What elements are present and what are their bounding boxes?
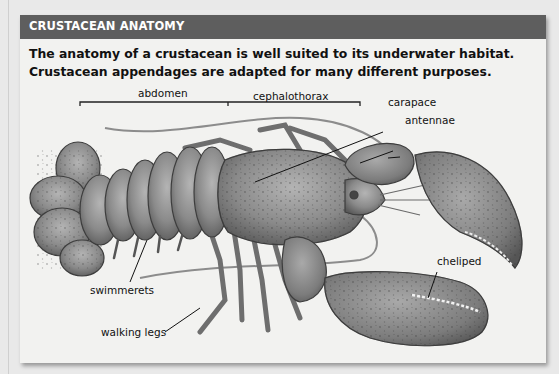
label-cheliped: cheliped — [437, 255, 482, 267]
lower-claw-drawing — [282, 237, 487, 346]
label-abdomen: abdomen — [138, 87, 188, 99]
label-antennae: antennae — [405, 114, 455, 126]
label-cephalothorax: cephalothorax — [253, 90, 329, 102]
label-swimmerets: swimmerets — [90, 284, 154, 296]
label-carapace: carapace — [388, 96, 436, 108]
body-region-bracket — [80, 102, 360, 106]
lobster-illustration — [0, 0, 559, 374]
label-walking-legs: walking legs — [101, 326, 166, 338]
